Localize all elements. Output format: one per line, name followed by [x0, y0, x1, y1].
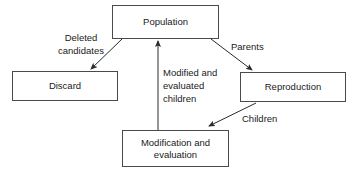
node-modification: Modification and evaluation	[122, 130, 229, 167]
node-reproduction-label: Reproduction	[263, 81, 324, 93]
node-discard-label: Discard	[47, 80, 83, 92]
edge-label-parents: Parents	[231, 40, 264, 53]
node-population-label: Population	[141, 16, 190, 28]
edge-label-deleted-candidates: Deleted candidates	[44, 31, 118, 57]
diagram-canvas: Population Discard Reproduction Modifica…	[0, 0, 352, 173]
edge-label-children: Children	[242, 112, 277, 125]
node-reproduction: Reproduction	[240, 72, 346, 102]
node-modification-label: Modification and evaluation	[139, 137, 212, 161]
node-discard: Discard	[12, 71, 118, 101]
node-population: Population	[112, 5, 219, 39]
edge-label-modified-evaluated-children: Modified and evaluated children	[163, 66, 217, 105]
